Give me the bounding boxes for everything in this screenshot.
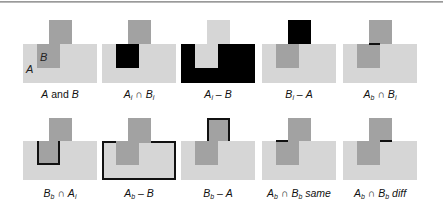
panel-ab-cap-bb-diff [343, 118, 417, 181]
panel-bi-minus-a [262, 20, 336, 83]
shape-b-upper [128, 118, 151, 143]
shape-a-outlined [102, 141, 176, 180]
label-a-and-b: A and B [15, 88, 105, 100]
shape-a [262, 44, 336, 83]
label-ab-cap-bi: Ab ∩ Bi [335, 88, 425, 101]
panel-bb-minus-a [181, 118, 255, 181]
panel-bb-cap-ai [23, 118, 97, 181]
letter-a: A [26, 63, 33, 75]
shape-b-upper-highlight [288, 20, 311, 44]
shape-a [23, 44, 97, 83]
panel-ab-cap-bi [343, 20, 417, 83]
shape-b-upper [128, 20, 151, 44]
letter-b: B [40, 51, 47, 63]
shape-b-lower [276, 141, 299, 165]
shape-b-upper [369, 118, 392, 141]
label-bb-minus-a: Bb – A [173, 187, 263, 200]
panel-ai-minus-b [181, 20, 255, 83]
edge-highlight [369, 43, 380, 45]
shape-a-remainder [218, 44, 230, 68]
shape-a [343, 44, 417, 83]
panel-ab-minus-b [102, 118, 176, 181]
shape-a [262, 141, 336, 180]
shape-b-upper [49, 118, 72, 141]
panel-ab-cap-bb-same [262, 118, 336, 181]
shape-b-upper-outlined [207, 118, 230, 141]
label-ab-minus-b: Ab – B [94, 187, 184, 200]
top-rule [0, 1, 443, 3]
shape-b-lower [116, 141, 139, 165]
edge-highlight [380, 140, 392, 142]
label-ab-cap-bb-diff: Ab ∩ Bb diff [335, 187, 425, 200]
label-ab-cap-bb-same: Ab ∩ Bb same [254, 187, 344, 200]
shape-b-lower-highlight [116, 44, 139, 68]
label-bi-minus-a: Bi – A [254, 88, 344, 101]
label-bb-cap-ai: Bb ∩ Ai [15, 187, 105, 200]
shape-b-lower [195, 141, 218, 165]
label-ai-minus-b: Ai – B [173, 88, 263, 101]
shape-a [102, 44, 176, 83]
shape-b-lower-outlined [37, 141, 60, 165]
shape-a [181, 141, 255, 180]
shape-b-upper [49, 20, 72, 44]
shape-a [343, 141, 417, 180]
panel-a-and-b: B A [23, 20, 97, 83]
label-ai-cap-bi: Ai ∩ Bi [94, 88, 184, 101]
edge-highlight [276, 140, 288, 142]
shape-a [23, 141, 97, 180]
shape-b-lower [357, 141, 380, 165]
shape-b-upper [288, 118, 311, 141]
shape-b-upper [369, 20, 392, 44]
shape-b-lower [276, 44, 299, 68]
shape-b-lower [357, 44, 380, 68]
panel-ai-cap-bi [102, 20, 176, 83]
